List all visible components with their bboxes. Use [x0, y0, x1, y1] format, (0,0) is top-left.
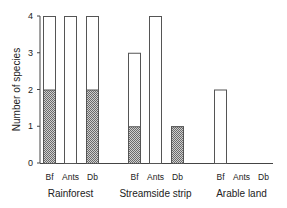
y-tick-label: 4 — [28, 11, 33, 21]
y-tick-label: 0 — [28, 158, 33, 168]
bars — [44, 17, 227, 164]
category-label: Db — [172, 172, 183, 182]
category-label: Ants — [233, 172, 250, 182]
y-tick-label: 3 — [28, 48, 33, 58]
category-label: Ants — [62, 172, 79, 182]
bar-hatched-rainforest-db — [87, 90, 99, 164]
bar-chart: 01234Number of species BfAntsDbRainfores… — [0, 0, 287, 208]
y-tick-label: 1 — [28, 121, 33, 131]
category-label: Db — [87, 172, 98, 182]
labels: BfAntsDbRainforestBfAntsDbStreamside str… — [45, 172, 269, 199]
bar-rainforest-ants — [65, 17, 77, 164]
y-axis-title: Number of species — [11, 48, 22, 131]
bar-arable-land-bf — [215, 90, 227, 164]
group-label: Arable land — [216, 188, 267, 199]
category-label: Bf — [45, 172, 54, 182]
group-label: Rainforest — [48, 188, 94, 199]
category-label: Bf — [216, 172, 225, 182]
category-label: Ants — [147, 172, 164, 182]
bar-hatched-rainforest-bf — [44, 90, 56, 164]
group-label: Streamside strip — [119, 188, 192, 199]
y-tick-label: 2 — [28, 85, 33, 95]
bar-streamside-strip-ants — [150, 17, 162, 164]
bar-hatched-streamside-strip-db — [172, 127, 184, 164]
category-label: Bf — [130, 172, 139, 182]
category-label: Db — [258, 172, 269, 182]
bar-hatched-streamside-strip-bf — [129, 127, 141, 164]
